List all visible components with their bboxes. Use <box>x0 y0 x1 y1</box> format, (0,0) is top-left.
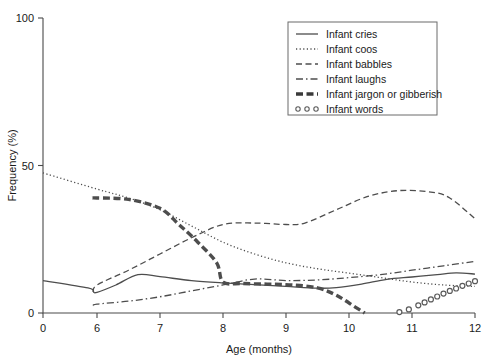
data-marker <box>422 300 427 305</box>
data-marker <box>441 291 446 296</box>
x-tick-label: 0 <box>40 322 46 334</box>
legend-label: Infant coos <box>326 43 377 55</box>
legend-label: Infant jargon or gibberish <box>326 88 442 100</box>
x-tick-label: 9 <box>283 322 289 334</box>
legend-marker <box>305 107 309 111</box>
x-tick-label: 6 <box>94 322 100 334</box>
y-tick-label: 100 <box>16 12 34 24</box>
x-tick-label: 10 <box>343 322 355 334</box>
series-infant-words <box>397 279 478 315</box>
y-axis-title: Frequency (%) <box>6 129 18 201</box>
y-tick-label: 50 <box>22 160 34 172</box>
legend-marker <box>296 107 300 111</box>
data-marker <box>435 294 440 299</box>
data-marker <box>416 303 421 308</box>
legend-label: Infant babbles <box>326 58 392 70</box>
legend-label: Infant words <box>326 103 383 115</box>
data-marker <box>447 288 452 293</box>
line-chart: 05010006789101112Age (months)Frequency (… <box>0 0 496 360</box>
legend-marker <box>314 107 318 111</box>
x-tick-label: 8 <box>220 322 226 334</box>
legend-label: Infant cries <box>326 28 377 40</box>
series-infant-laughs <box>93 261 475 305</box>
data-marker <box>406 307 411 312</box>
x-tick-label: 11 <box>406 322 417 334</box>
chart-container: 05010006789101112Age (months)Frequency (… <box>0 0 496 360</box>
data-marker <box>397 310 402 315</box>
data-line <box>93 261 475 305</box>
data-marker <box>460 283 465 288</box>
x-tick-label: 12 <box>469 322 481 334</box>
series-layer <box>43 173 478 315</box>
legend-layer: Infant criesInfant coosInfant babblesInf… <box>288 22 442 115</box>
data-marker <box>473 279 478 284</box>
legend-label: Infant laughs <box>326 73 386 85</box>
x-axis-title: Age (months) <box>226 343 292 355</box>
data-marker <box>466 281 471 286</box>
x-tick-label: 7 <box>157 322 163 334</box>
data-marker <box>428 297 433 302</box>
y-tick-label: 0 <box>28 307 34 319</box>
data-marker <box>454 286 459 291</box>
